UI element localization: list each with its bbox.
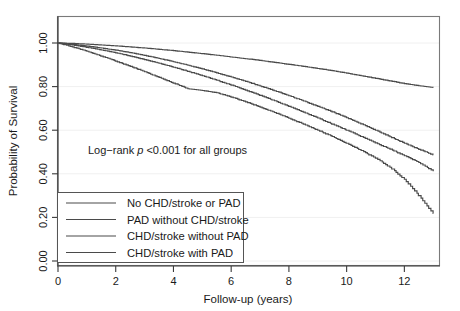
y-tick-label: 0.00 <box>37 250 49 271</box>
legend-label-0: No CHD/stroke or PAD <box>127 197 241 209</box>
x-tick-label: 10 <box>341 275 353 287</box>
kaplan-meier-plot: 0.000.200.400.600.801.00 024681012 Proba… <box>0 0 460 311</box>
x-tick-label: 8 <box>286 275 292 287</box>
legend-label-3: CHD/stroke with PAD <box>127 247 233 259</box>
x-tick-label: 2 <box>113 275 119 287</box>
logrank-annotation: Log−rank p <0.001 for all groups <box>88 144 248 156</box>
x-tick-label: 12 <box>398 275 410 287</box>
y-tick-label: 0.80 <box>37 76 49 97</box>
survival-curve-figure: 0.000.200.400.600.801.00 024681012 Proba… <box>0 0 460 311</box>
x-tick-label: 4 <box>170 275 176 287</box>
x-tick-label: 0 <box>55 275 61 287</box>
legend-label-1: PAD without CHD/stroke <box>127 214 249 226</box>
legend: No CHD/stroke or PADPAD without CHD/stro… <box>58 193 249 263</box>
y-tick-label: 0.60 <box>37 119 49 140</box>
legend-label-2: CHD/stroke without PAD <box>127 230 249 242</box>
y-tick-label: 1.00 <box>37 32 49 53</box>
y-tick-label: 0.20 <box>37 207 49 228</box>
x-tick-label: 6 <box>228 275 234 287</box>
y-tick-label: 0.40 <box>37 163 49 184</box>
x-axis-label: Follow-up (years) <box>204 293 293 305</box>
y-axis-label: Probability of Survival <box>7 86 19 197</box>
